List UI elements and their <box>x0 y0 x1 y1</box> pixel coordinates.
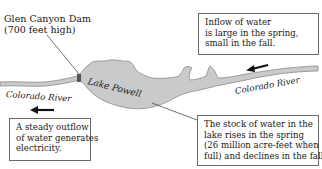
dam-name: Glen Canyon Dam <box>4 13 91 24</box>
stock-line-3: (26 million acre-feet when <box>204 140 312 151</box>
dam-label: Glen Canyon Dam (700 feet high) <box>4 13 91 35</box>
stock-callout: The stock of water in the lake rises in … <box>197 115 319 166</box>
colorado-river-downstream <box>0 76 80 86</box>
outflow-line-1: A steady outflow <box>16 122 84 133</box>
lake-powell-diagram: Glen Canyon Dam (700 feet high) Inflow o… <box>0 0 322 169</box>
inflow-line-3: small in the fall. <box>205 38 312 49</box>
stock-line-1: The stock of water in the <box>204 119 312 130</box>
stock-line-2: lake rises in the spring <box>204 130 312 141</box>
dam-height: (700 feet high) <box>4 24 91 35</box>
outflow-line-2: of water generates <box>16 133 84 144</box>
stock-pointer-line <box>152 103 197 120</box>
inflow-line-1: Inflow of water <box>205 17 312 28</box>
outflow-line-3: electricity. <box>16 143 84 154</box>
stock-line-4: full) and declines in the fall. <box>204 151 312 162</box>
outflow-callout: A steady outflow of water generates elec… <box>9 118 91 161</box>
inflow-callout: Inflow of water is large in the spring, … <box>198 13 319 55</box>
dam-pointer-line <box>47 35 79 74</box>
outflow-arrow-icon <box>30 106 54 114</box>
dam-marker <box>77 74 81 82</box>
inflow-line-2: is large in the spring, <box>205 28 312 39</box>
